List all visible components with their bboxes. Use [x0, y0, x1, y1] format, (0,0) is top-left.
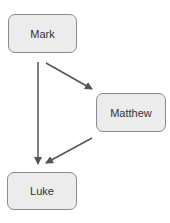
- node-luke-label: Luke: [30, 185, 54, 197]
- node-luke: Luke: [7, 172, 77, 210]
- edge-matthew-luke: [46, 138, 92, 163]
- node-mark-label: Mark: [30, 28, 54, 40]
- node-matthew: Matthew: [96, 93, 166, 132]
- node-matthew-label: Matthew: [110, 107, 152, 119]
- edge-mark-matthew: [46, 63, 92, 89]
- node-mark: Mark: [8, 14, 77, 53]
